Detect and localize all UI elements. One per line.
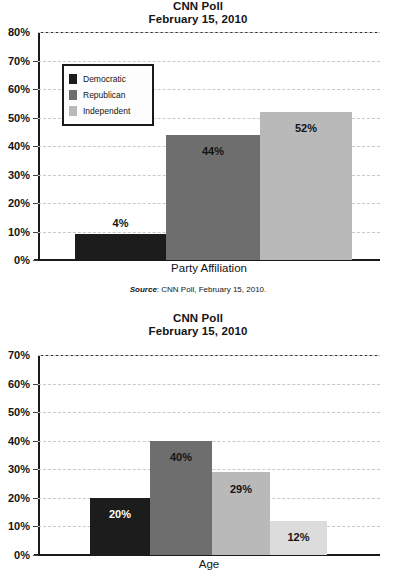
- chart-1-tick-20: [33, 203, 38, 204]
- legend-label-independent: Independent: [83, 106, 130, 116]
- bar-value-50-64: 29%: [212, 483, 270, 495]
- chart-2-tick-50: [33, 412, 38, 413]
- chart-2-title-block: CNN Poll February 15, 2010: [0, 312, 396, 338]
- chart-2-gridline-70: [38, 355, 380, 356]
- chart-2-ylabel-60: 60%: [0, 378, 30, 390]
- legend-swatch-independent-icon: [69, 106, 77, 116]
- chart-1-tick-10: [33, 232, 38, 233]
- legend-label-republican: Republican: [83, 90, 126, 100]
- chart-2-ylabel-40: 40%: [0, 435, 30, 447]
- chart-2-title: CNN Poll: [173, 312, 223, 324]
- chart-1-tick-70: [33, 61, 38, 62]
- chart-1-subtitle: February 15, 2010: [0, 13, 396, 26]
- chart-1-tick-30: [33, 175, 38, 176]
- chart-1-ylabel-40: 40%: [0, 140, 30, 152]
- chart-2-ylabel-70: 70%: [0, 349, 30, 361]
- chart-1-tick-0: [33, 260, 38, 261]
- legend-item-democratic: Democratic: [69, 71, 144, 87]
- bar-independent: 52%: [260, 112, 352, 260]
- bar-age-50-64: 29%: [212, 472, 270, 555]
- chart-1-ylabel-50: 50%: [0, 112, 30, 124]
- chart-1-ylabel-80: 80%: [0, 26, 30, 38]
- chart-1-ylabel-0: 0%: [0, 254, 30, 266]
- chart-age: CNN Poll February 15, 2010 70% 60% 50% 4…: [0, 312, 396, 579]
- legend-swatch-democratic-icon: [69, 74, 77, 84]
- chart-2-gridline-60: [38, 384, 380, 385]
- bar-value-independent: 52%: [260, 122, 352, 134]
- chart-2-gridline-50: [38, 412, 380, 413]
- chart-2-tick-40: [33, 441, 38, 442]
- chart-1-ylabel-30: 30%: [0, 169, 30, 181]
- chart-1-source-note: Source: CNN Poll, February 15, 2010.: [0, 285, 396, 294]
- chart-party-affiliation: CNN Poll February 15, 2010 80% 70% 60% 5…: [0, 0, 396, 305]
- chart-1-legend: Democratic Republican Independent: [62, 64, 154, 126]
- chart-2-ylabel-20: 20%: [0, 492, 30, 504]
- bar-age-30-49: 40%: [150, 441, 212, 555]
- bar-value-65-and-older: 12%: [270, 531, 327, 543]
- chart-2-tick-60: [33, 384, 38, 385]
- chart-2-y-axis: [38, 355, 40, 555]
- chart-2-ylabel-10: 10%: [0, 520, 30, 532]
- chart-1-title-block: CNN Poll February 15, 2010: [0, 0, 396, 26]
- chart-2-plot-area: 70% 60% 50% 40% 30% 20% 10% 0% 20% 40% 2…: [38, 355, 380, 555]
- chart-1-tick-60: [33, 89, 38, 90]
- bar-republican: 44%: [166, 135, 260, 260]
- legend-swatch-republican-icon: [69, 90, 77, 100]
- bar-value-democratic: 4%: [75, 217, 166, 229]
- chart-1-ylabel-10: 10%: [0, 226, 30, 238]
- chart-2-subtitle: February 15, 2010: [0, 325, 396, 338]
- bar-value-30-49: 40%: [150, 451, 212, 463]
- chart-1-tick-40: [33, 146, 38, 147]
- chart-2-tick-0: [33, 555, 38, 556]
- legend-item-independent: Independent: [69, 103, 144, 119]
- bar-value-18-29: 20%: [90, 508, 150, 520]
- chart-1-gridline-70: [38, 61, 380, 62]
- bar-democratic: 4%: [75, 234, 166, 260]
- source-text: CNN Poll, February 15, 2010.: [161, 285, 266, 294]
- chart-2-ylabel-50: 50%: [0, 406, 30, 418]
- bar-age-65-and-older: 12%: [270, 521, 327, 555]
- chart-2-ylabel-0: 0%: [0, 549, 30, 561]
- chart-2-ylabel-30: 30%: [0, 463, 30, 475]
- chart-1-ylabel-60: 60%: [0, 83, 30, 95]
- chart-1-gridline-80: [38, 32, 380, 33]
- chart-1-ylabel-70: 70%: [0, 55, 30, 67]
- chart-2-tick-30: [33, 469, 38, 470]
- chart-2-tick-20: [33, 498, 38, 499]
- chart-1-ylabel-20: 20%: [0, 197, 30, 209]
- legend-item-republican: Republican: [69, 87, 144, 103]
- chart-2-tick-10: [33, 526, 38, 527]
- source-word: Source: [130, 285, 157, 294]
- chart-1-title: CNN Poll: [173, 0, 223, 12]
- bar-age-18-29: 20%: [90, 498, 150, 555]
- legend-label-democratic: Democratic: [83, 74, 126, 84]
- chart-1-tick-50: [33, 118, 38, 119]
- bar-value-republican: 44%: [166, 145, 260, 157]
- chart-2-x-axis-label: Age: [38, 558, 380, 570]
- chart-1-x-axis-label: Party Affiliation: [38, 262, 380, 274]
